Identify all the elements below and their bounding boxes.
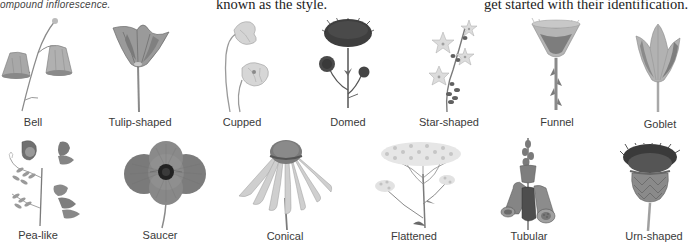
label-tubular: Tubular bbox=[511, 230, 548, 242]
label-conical: Conical bbox=[267, 230, 304, 242]
label-bell: Bell bbox=[24, 116, 42, 128]
conical-flower-illustration bbox=[235, 138, 335, 232]
label-domed: Domed bbox=[330, 116, 365, 128]
star-flower-illustration bbox=[425, 20, 485, 115]
label-star-shaped: Star-shaped bbox=[419, 116, 479, 128]
caption-compound-inflorescence: ompound inflorescence. bbox=[0, 0, 111, 10]
label-cupped: Cupped bbox=[223, 116, 262, 128]
goblet-flower-illustration bbox=[628, 22, 685, 117]
cupped-flower-illustration bbox=[218, 20, 278, 115]
tulip-flower-illustration bbox=[105, 20, 175, 115]
pea-flower-illustration bbox=[2, 138, 84, 230]
saucer-flower-illustration bbox=[122, 140, 210, 230]
bell-flower-illustration bbox=[0, 18, 80, 113]
urn-flower-illustration bbox=[620, 143, 685, 233]
caption-style: known as the style. bbox=[216, 0, 327, 13]
label-urn-shaped: Urn-shaped bbox=[625, 230, 682, 242]
label-flattened: Flattened bbox=[391, 230, 437, 242]
funnel-flower-illustration bbox=[528, 18, 588, 113]
flattened-flower-illustration bbox=[365, 138, 465, 232]
label-funnel: Funnel bbox=[540, 116, 574, 128]
label-saucer: Saucer bbox=[143, 229, 178, 241]
tubular-flower-illustration bbox=[500, 138, 560, 232]
label-goblet: Goblet bbox=[644, 118, 676, 130]
label-tulip-shaped: Tulip-shaped bbox=[108, 116, 171, 128]
caption-identification: get started with their identification. bbox=[484, 0, 688, 13]
label-pea-like: Pea-like bbox=[18, 229, 58, 241]
domed-flower-illustration bbox=[312, 18, 388, 113]
